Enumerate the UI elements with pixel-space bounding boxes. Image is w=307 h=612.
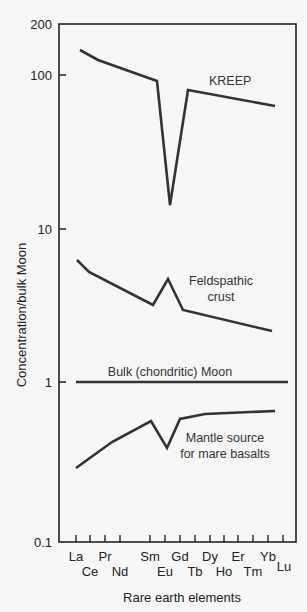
- plot-frame: [59, 24, 296, 542]
- x-label-tb: Tb: [187, 564, 202, 579]
- y-tick-0-1: 0.1: [34, 535, 52, 550]
- label-kreep: KREEP: [209, 74, 251, 88]
- y-tick-100: 100: [30, 68, 52, 83]
- x-label-lu: Lu: [277, 559, 291, 574]
- y-tick-200: 200: [30, 17, 52, 32]
- label-mantle-1: Mantle source: [186, 431, 265, 445]
- label-bulk-moon: Bulk (chondritic) Moon: [108, 365, 232, 379]
- ree-chart: 200 100 10 1 0.1 La Pr Sm Gd Dy Er Yb Ce…: [0, 0, 307, 612]
- x-label-gd: Gd: [171, 549, 188, 564]
- x-label-ho: Ho: [216, 564, 233, 579]
- x-label-ce: Ce: [82, 564, 99, 579]
- x-label-er: Er: [232, 549, 246, 564]
- x-label-la: La: [69, 549, 84, 564]
- y-axis-title: Concentration/bulk Moon: [14, 243, 29, 388]
- y-tick-10: 10: [38, 222, 52, 237]
- x-label-eu: Eu: [157, 564, 173, 579]
- label-mantle-2: for mare basalts: [180, 447, 270, 461]
- series-feldspathic-line: [77, 260, 272, 331]
- x-label-sm: Sm: [140, 549, 160, 564]
- label-feldspathic-2: crust: [207, 290, 235, 304]
- x-label-yb: Yb: [260, 549, 276, 564]
- x-label-tm: Tm: [244, 564, 263, 579]
- x-label-pr: Pr: [99, 549, 113, 564]
- x-axis-title: Rare earth elements: [123, 590, 241, 605]
- label-feldspathic-1: Feldspathic: [189, 274, 253, 288]
- y-ticks: [59, 75, 66, 382]
- x-ticks: [76, 535, 283, 542]
- x-label-nd: Nd: [112, 564, 129, 579]
- y-tick-1: 1: [45, 375, 52, 390]
- x-label-dy: Dy: [202, 549, 218, 564]
